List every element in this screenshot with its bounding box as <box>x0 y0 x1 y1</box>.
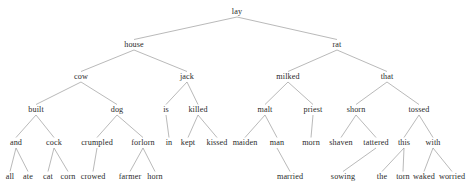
tree-node-kissed: kissed <box>206 139 227 147</box>
tree-edge <box>81 82 117 105</box>
tree-node-all: all <box>6 173 14 181</box>
tree-node-torn: torn <box>396 173 410 181</box>
tree-node-maiden: maiden <box>233 139 258 147</box>
tree-node-the: the <box>377 173 387 181</box>
tree-node-malt: malt <box>258 106 273 114</box>
tree-edge <box>265 115 277 138</box>
tree-edge <box>166 82 187 105</box>
tree-node-worried: worried <box>439 173 465 181</box>
tree-node-dog: dog <box>111 106 124 114</box>
tree-edge <box>311 115 313 138</box>
tree-edge <box>341 115 356 138</box>
tree-edge <box>424 148 433 172</box>
tree-node-corn: corn <box>61 173 76 181</box>
tree-edge <box>10 148 16 172</box>
tree-node-horn: horn <box>147 173 162 181</box>
tree-node-crowed: crowed <box>81 173 106 181</box>
tree-node-farmer: farmer <box>119 173 141 181</box>
tree-node-cock: cock <box>46 139 62 147</box>
tree-edge <box>356 82 387 105</box>
tree-edge <box>237 17 337 40</box>
tree-edge <box>337 50 387 72</box>
tree-edge <box>166 115 169 138</box>
tree-edge <box>117 115 143 138</box>
tree-node-this: this <box>398 139 410 147</box>
tree-edges-layer <box>0 0 475 192</box>
tree-edge <box>134 17 237 40</box>
tree-edge <box>387 82 419 105</box>
tree-edge <box>36 82 81 105</box>
tree-edge <box>16 115 36 138</box>
tree-edge <box>356 115 376 138</box>
tree-edge <box>81 50 134 72</box>
tree-node-house: house <box>124 41 144 49</box>
tree-node-married: married <box>277 173 303 181</box>
tree-node-lay: lay <box>232 8 242 16</box>
tree-edge <box>382 148 404 172</box>
tree-node-shorn: shorn <box>347 106 366 114</box>
tree-edge <box>288 82 313 105</box>
tree-node-is: is <box>163 106 169 114</box>
tree-edge <box>343 148 376 172</box>
tree-edge <box>419 115 433 138</box>
tree-edge <box>265 82 288 105</box>
tree-node-sowing: sowing <box>331 173 355 181</box>
tree-edge <box>36 115 54 138</box>
tree-edge <box>404 115 419 138</box>
tree-node-rat: rat <box>333 41 342 49</box>
tree-edge <box>187 82 198 105</box>
tree-edge <box>245 115 265 138</box>
tree-node-built: built <box>28 106 44 114</box>
tree-edge <box>143 148 155 172</box>
tree-node-in: in <box>166 139 173 147</box>
tree-node-cat: cat <box>43 173 53 181</box>
tree-node-with: with <box>426 139 441 147</box>
tree-edge <box>433 148 452 172</box>
tree-node-milked: milked <box>276 73 299 81</box>
tree-node-tattered: tattered <box>363 139 388 147</box>
tree-node-cow: cow <box>74 73 88 81</box>
tree-node-morn: morn <box>302 139 320 147</box>
tree-edge <box>134 50 187 72</box>
tree-edge <box>93 148 97 172</box>
tree-node-jack: jack <box>180 73 194 81</box>
tree-node-killed: killed <box>188 106 207 114</box>
tree-node-kept: kept <box>181 139 196 147</box>
tree-edge <box>48 148 54 172</box>
tree-edge <box>130 148 143 172</box>
tree-node-ate: ate <box>23 173 33 181</box>
tree-node-and: and <box>10 139 22 147</box>
tree-edge <box>288 50 337 72</box>
tree-node-tossed: tossed <box>408 106 429 114</box>
parse-tree-diagram: layhouseratcowjackmilkedthatbuiltdogiski… <box>0 0 475 192</box>
tree-edge <box>277 148 290 172</box>
tree-node-priest: priest <box>304 106 323 114</box>
tree-node-man: man <box>270 139 284 147</box>
tree-edge <box>97 115 117 138</box>
tree-node-waked: waked <box>413 173 435 181</box>
tree-edge <box>54 148 68 172</box>
tree-edge <box>198 115 217 138</box>
tree-node-shaven: shaven <box>329 139 352 147</box>
tree-node-forlorn: forlorn <box>131 139 154 147</box>
tree-edge <box>403 148 404 172</box>
tree-edge <box>16 148 28 172</box>
tree-node-that: that <box>381 73 394 81</box>
tree-node-crumpled: crumpled <box>81 139 113 147</box>
tree-edge <box>188 115 198 138</box>
